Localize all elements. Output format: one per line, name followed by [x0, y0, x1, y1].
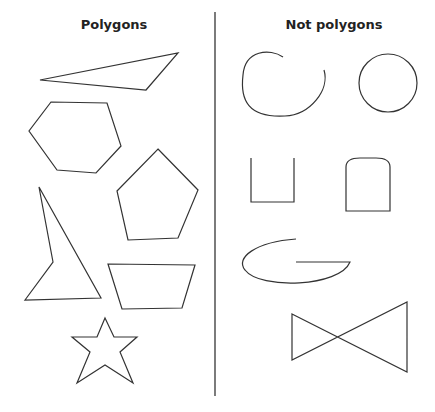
shapes-diagram — [0, 0, 435, 412]
hexagon-shape — [29, 102, 121, 173]
pentagon-shape — [117, 149, 198, 240]
bowtie-shape — [292, 302, 407, 372]
rounded-top-shape — [346, 158, 390, 211]
curved-g-shape — [242, 239, 350, 283]
circle-shape — [359, 54, 417, 112]
concave-quadrilateral-shape — [25, 187, 101, 300]
triangle-shape — [40, 53, 178, 90]
trapezoid-shape — [108, 264, 195, 309]
open-rectangle-shape — [251, 158, 294, 202]
open-curve-shape — [242, 52, 325, 116]
star-shape — [72, 318, 137, 383]
